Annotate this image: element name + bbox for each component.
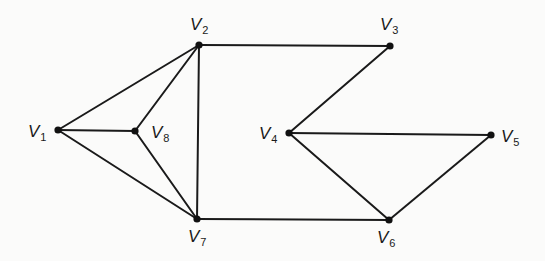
edge-v5-v6	[389, 135, 491, 220]
node-label-v2: V2	[190, 15, 208, 36]
edge-v2-v3	[199, 45, 390, 46]
node-v1	[54, 126, 61, 133]
node-label-v5: V5	[501, 127, 519, 148]
node-label-v6: V6	[377, 228, 395, 249]
graph-diagram: V1V2V3V4V5V6V7V8	[0, 0, 545, 261]
edge-v1-v7	[58, 130, 197, 219]
node-v7	[193, 215, 200, 222]
node-label-v1: V1	[28, 122, 46, 143]
graph-canvas: V1V2V3V4V5V6V7V8	[0, 0, 545, 261]
node-v6	[385, 216, 392, 223]
edge-v4-v6	[289, 133, 389, 220]
edge-v1-v2	[58, 45, 199, 130]
edge-v7-v6	[197, 219, 389, 220]
node-v2	[195, 41, 202, 48]
edge-v3-v4	[289, 46, 390, 133]
edge-v8-v7	[135, 131, 197, 219]
node-v8	[131, 127, 138, 134]
node-label-v7: V7	[188, 227, 206, 248]
edge-v8-v2	[135, 45, 199, 131]
node-v5	[487, 131, 494, 138]
node-label-v3: V3	[380, 15, 398, 36]
edge-v4-v5	[289, 133, 491, 135]
edge-v1-v8	[58, 130, 135, 131]
node-v3	[386, 42, 393, 49]
labels-layer: V1V2V3V4V5V6V7V8	[28, 15, 519, 249]
node-label-v4: V4	[259, 124, 277, 145]
node-v4	[285, 129, 292, 136]
edge-v2-v7	[197, 45, 199, 219]
node-label-v8: V8	[151, 123, 169, 144]
